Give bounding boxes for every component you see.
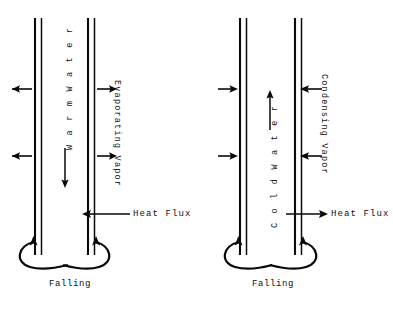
left-tube-right-wall [88, 18, 95, 255]
left-inner-flow-arrow-down [61, 148, 68, 188]
left-wall-vapor-arrow-upper [12, 85, 32, 93]
right-caption-block: Falling Liquid Condensed Film [213, 256, 333, 312]
left-heat-flux-label: Heat Flux [133, 209, 192, 219]
left-tube-left-wall [35, 18, 42, 255]
left-caption-block: Falling Liquid Evaporating Film [10, 256, 130, 312]
right-heat-flux-arrow [286, 210, 328, 218]
left-heat-flux-arrow [82, 210, 130, 218]
right-heat-flux-label: Heat Flux [331, 209, 390, 219]
right-tube-left-wall-vapor-arrow-lower [218, 152, 238, 160]
left-inner-flow-label: W a r m W a t e r [65, 26, 75, 150]
right-tube-left-wall-vapor-arrow-upper [218, 85, 238, 93]
right-tube-left-wall [240, 18, 247, 255]
right-caption-line-1: Falling [213, 279, 333, 291]
figure-canvas: W a r m W a t e r Evaporating Vapor Heat… [0, 0, 393, 312]
right-tube-right-wall [295, 18, 302, 255]
left-wall-vapor-arrow-lower [12, 152, 32, 160]
right-outer-vapor-label: Condensing Vapor [319, 74, 329, 175]
left-outer-vapor-label: Evaporating Vapor [112, 80, 122, 187]
left-caption-line-1: Falling [10, 279, 130, 291]
right-inner-flow-label: C o l d W a t e r [270, 104, 280, 228]
